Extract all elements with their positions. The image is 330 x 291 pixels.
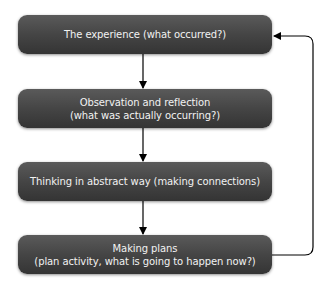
node-abstract: Thinking in abstract way (making connect…	[18, 162, 272, 201]
node-plans-title: Making plans	[113, 242, 178, 255]
node-experience-label: The experience (what occurred?)	[64, 28, 226, 41]
node-plans: Making plans (plan activity, what is goi…	[18, 235, 272, 274]
node-abstract-label: Thinking in abstract way (making connect…	[30, 175, 260, 188]
node-observation-subtitle: (what was actually occurring?)	[70, 109, 220, 122]
node-experience: The experience (what occurred?)	[18, 15, 272, 54]
node-observation: Observation and reflection (what was act…	[18, 89, 272, 128]
node-plans-subtitle: (plan activity, what is going to happen …	[34, 255, 255, 268]
node-observation-title: Observation and reflection	[80, 96, 211, 109]
arrow-plans-to-experience-loop	[272, 36, 313, 255]
